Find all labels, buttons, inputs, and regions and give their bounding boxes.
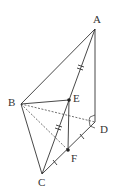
label-B: B bbox=[8, 96, 15, 108]
edge-BE bbox=[21, 100, 69, 104]
label-A: A bbox=[93, 13, 101, 25]
label-C: C bbox=[38, 176, 45, 188]
edge-BD-dashed bbox=[21, 104, 95, 122]
point-F bbox=[66, 148, 70, 152]
right-angle-mark-D2 bbox=[89, 115, 95, 120]
label-F: F bbox=[71, 152, 77, 164]
label-D: D bbox=[100, 123, 108, 135]
tetrahedron-diagram: A B C D E F bbox=[0, 0, 118, 195]
label-E: E bbox=[73, 92, 80, 104]
edge-EF bbox=[68, 100, 69, 150]
point-E bbox=[67, 98, 71, 102]
